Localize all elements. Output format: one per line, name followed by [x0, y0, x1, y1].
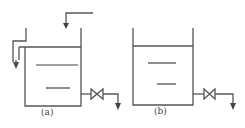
inlet-pipe-a — [66, 13, 93, 24]
outlet-arrow-icon-a — [115, 103, 121, 110]
tank-a: (a) — [13, 13, 121, 117]
inlet-arrow-icon — [63, 23, 69, 29]
outlet-pipe-a-end — [103, 94, 118, 104]
tank-a-walls — [25, 28, 81, 106]
tank-b: (b) — [133, 28, 236, 116]
tank-diagram: (a) (b) — [0, 0, 245, 128]
valve-icon-b — [204, 89, 215, 99]
label-b: (b) — [154, 106, 167, 116]
label-a: (a) — [41, 107, 53, 117]
outlet-arrow-icon-b — [230, 103, 236, 110]
valve-icon-a — [91, 89, 103, 99]
outlet-pipe-b-end — [215, 94, 233, 104]
tank-b-walls — [133, 28, 193, 105]
